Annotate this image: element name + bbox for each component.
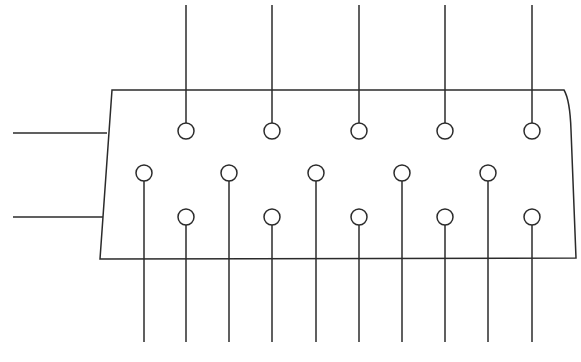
pin-13-icon (351, 209, 367, 225)
side-leads (13, 133, 107, 217)
pin-7-icon (221, 165, 237, 181)
connector-diagram (0, 0, 581, 362)
pin-10-icon (480, 165, 496, 181)
pin-2-icon (264, 123, 280, 139)
pin-1-icon (178, 123, 194, 139)
pin-6-icon (136, 165, 152, 181)
pin-8-icon (308, 165, 324, 181)
pin-leads (144, 5, 532, 342)
pin-15-icon (524, 209, 540, 225)
pin-3-icon (351, 123, 367, 139)
pin-14-icon (437, 209, 453, 225)
pin-9-icon (394, 165, 410, 181)
pin-11-icon (178, 209, 194, 225)
connector-body (100, 90, 576, 259)
pin-5-icon (524, 123, 540, 139)
pin-12-icon (264, 209, 280, 225)
pin-4-icon (437, 123, 453, 139)
pins (136, 123, 540, 225)
